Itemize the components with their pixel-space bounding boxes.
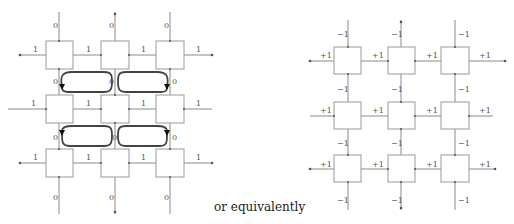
cell-box	[441, 47, 469, 74]
svg-text:+1: +1	[479, 160, 491, 169]
cell-box	[156, 95, 184, 123]
arrowhead-icon	[59, 130, 65, 136]
svg-text:0: 0	[164, 21, 169, 30]
svg-text:−1: −1	[391, 196, 403, 205]
svg-text:+1: +1	[479, 51, 491, 60]
svg-text:−1: −1	[458, 30, 470, 39]
svg-text:−1: −1	[458, 196, 470, 205]
svg-text:−1: −1	[337, 30, 349, 39]
cell-box	[334, 47, 361, 74]
svg-text:1: 1	[196, 99, 201, 108]
loop-upper-right	[118, 72, 168, 92]
svg-text:+1: +1	[426, 160, 438, 169]
svg-text:−1: −1	[391, 85, 403, 94]
svg-text:−1: −1	[337, 196, 349, 205]
svg-text:0: 0	[53, 77, 58, 86]
cell-box	[46, 149, 73, 177]
svg-text:−1: −1	[458, 85, 470, 94]
svg-text:1: 1	[86, 153, 91, 162]
svg-text:1: 1	[86, 45, 91, 54]
loop-lower-right	[118, 126, 167, 146]
caption-text: or equivalently	[214, 200, 305, 214]
svg-text:−1: −1	[391, 139, 403, 148]
svg-text:+1: +1	[320, 51, 332, 60]
cell-box	[388, 155, 415, 182]
svg-text:0: 0	[164, 193, 169, 202]
svg-text:+1: +1	[479, 106, 491, 115]
svg-text:0: 0	[109, 21, 114, 30]
svg-text:+1: +1	[372, 160, 384, 169]
cell-box	[156, 41, 184, 69]
loop-lower-left	[62, 126, 112, 146]
cell-box	[101, 95, 129, 123]
svg-text:+1: +1	[426, 51, 438, 60]
svg-text:1: 1	[33, 153, 38, 162]
cell-box	[334, 102, 361, 129]
svg-text:0: 0	[53, 193, 58, 202]
cell-box	[101, 41, 129, 69]
svg-text:0: 0	[109, 77, 114, 86]
cell-box	[441, 102, 469, 129]
svg-text:+1: +1	[426, 106, 438, 115]
svg-text:0: 0	[172, 133, 177, 142]
loop-upper-left	[61, 72, 112, 92]
svg-text:0: 0	[53, 21, 58, 30]
arrowhead-icon	[164, 84, 170, 90]
svg-text:−1: −1	[337, 85, 349, 94]
svg-text:1: 1	[141, 99, 146, 108]
svg-text:1: 1	[141, 153, 146, 162]
svg-text:−1: −1	[391, 30, 403, 39]
svg-text:1: 1	[196, 45, 201, 54]
svg-text:0: 0	[172, 77, 177, 86]
cell-box	[334, 155, 361, 182]
svg-text:+1: +1	[372, 106, 384, 115]
svg-text:+1: +1	[320, 106, 332, 115]
svg-text:1: 1	[31, 99, 36, 108]
svg-text:+1: +1	[320, 160, 332, 169]
cell-box	[46, 41, 73, 69]
svg-text:0: 0	[109, 193, 114, 202]
cell-box	[156, 149, 184, 177]
svg-text:1: 1	[86, 99, 91, 108]
svg-text:0: 0	[112, 133, 117, 142]
cell-box	[46, 95, 73, 123]
left-diagram	[8, 12, 213, 214]
svg-text:1: 1	[196, 153, 201, 162]
svg-text:−1: −1	[337, 139, 349, 148]
cell-box	[441, 155, 469, 182]
cell-box	[388, 47, 415, 74]
arrowhead-icon	[164, 130, 170, 136]
svg-text:1: 1	[33, 45, 38, 54]
svg-text:0: 0	[53, 133, 58, 142]
svg-text:+1: +1	[372, 51, 384, 60]
cell-box	[101, 149, 129, 177]
arrowhead-icon	[59, 84, 65, 90]
cell-box	[388, 102, 415, 129]
right-diagram	[309, 20, 507, 210]
svg-text:1: 1	[141, 45, 146, 54]
svg-text:−1: −1	[458, 139, 470, 148]
diagram-canvas: 0 0 0 1 1 1 1 0 0 0 1 1 1 1 0 0 0 1 1 1 …	[0, 0, 514, 224]
